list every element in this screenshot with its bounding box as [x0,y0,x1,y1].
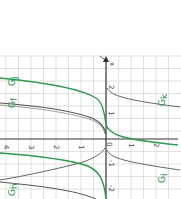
svg-text:j: j [9,76,19,80]
svg-text:h: h [9,183,19,189]
svg-text:k: k [159,93,169,99]
function-graph: x 4 3 2 1 0 1 2 2 1 -1 -2 G j G f G k G … [0,0,181,199]
label-gi: G i [157,173,169,183]
curve-gj [0,78,178,145]
svg-text:G: G [7,189,17,196]
label-gk: G k [157,93,169,106]
tick-v-m1: -1 [107,160,115,167]
tick-h-m4: 4 [2,145,10,150]
tick-h-1: 1 [127,143,135,147]
tick-h-2: 2 [152,143,160,147]
tick-h-m1: 1 [77,145,85,149]
tick-v-1: 1 [107,111,115,115]
svg-text:G: G [7,101,17,108]
svg-text:G: G [157,176,167,183]
axis-label-x: x [108,62,116,66]
tick-v-m2: -2 [107,185,115,192]
tick-h-m3: 3 [27,145,35,149]
tick-v-2: 2 [107,85,115,89]
svg-text:f: f [9,97,19,101]
label-gh: G h [7,183,19,196]
axis-arrow-mark [100,56,105,60]
svg-text:G: G [7,79,17,86]
grid [0,56,181,199]
svg-text:G: G [157,99,167,106]
svg-text:i: i [159,173,169,176]
tick-h-0: 0 [105,142,113,146]
tick-h-m2: 2 [52,145,60,149]
